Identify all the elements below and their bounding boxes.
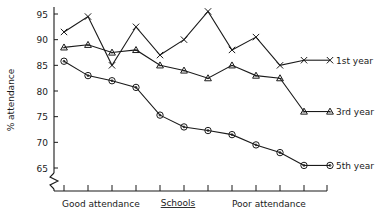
- good-attendance-label: Good attendance: [62, 199, 140, 209]
- y-tick-label: 80: [37, 87, 49, 97]
- data-point-circle-dot: [63, 60, 65, 62]
- data-point-x: [109, 62, 115, 68]
- x-axis-title: Schools: [161, 198, 196, 208]
- data-point-x: [229, 47, 235, 53]
- y-tick-label: 65: [37, 164, 48, 174]
- data-point-x: [253, 34, 259, 40]
- poor-attendance-label: Poor attendance: [232, 199, 306, 209]
- data-point-x: [85, 13, 91, 19]
- y-tick-label: 90: [37, 35, 49, 45]
- data-point-x: [61, 29, 67, 35]
- y-axis-title: % attendance: [6, 68, 16, 131]
- y-tick-label: 75: [37, 112, 48, 122]
- legend-label-5th-year: 5th year: [336, 161, 374, 171]
- series-line-1st-year: [64, 11, 304, 65]
- y-tick-label: 85: [37, 61, 48, 71]
- chart-canvas: 65707580859095% attendanceGood attendanc…: [0, 0, 391, 222]
- y-tick-label: 95: [37, 10, 48, 20]
- data-point-x: [181, 36, 187, 42]
- data-point-x: [133, 24, 139, 30]
- data-point-x: [157, 52, 163, 58]
- attendance-line-chart: 65707580859095% attendanceGood attendanc…: [0, 0, 391, 222]
- legend-label-1st-year: 1st year: [336, 56, 373, 66]
- legend-label-3rd-year: 3rd year: [336, 107, 374, 117]
- data-point-x: [205, 8, 211, 14]
- y-axis-break-icon: [50, 173, 58, 189]
- y-tick-label: 70: [37, 138, 49, 148]
